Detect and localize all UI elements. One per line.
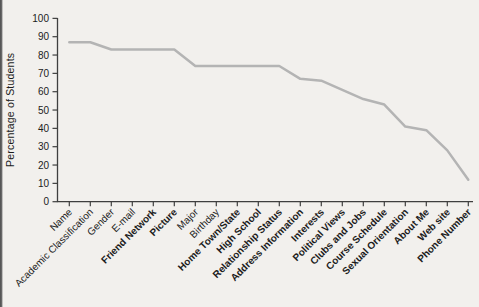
line-chart: 0102030405060708090100NameAcademic Class… <box>0 0 479 307</box>
axes <box>58 18 474 202</box>
y-tick-label: 0 <box>43 196 49 207</box>
y-tick-label: 60 <box>38 86 50 97</box>
y-axis-title: Percentage of Students <box>4 53 16 167</box>
y-tick-label: 70 <box>38 68 50 79</box>
data-series-line <box>69 42 468 179</box>
scan-edge-artifact <box>0 0 3 307</box>
y-tick-label: 50 <box>38 105 50 116</box>
y-tick-label: 40 <box>38 123 50 134</box>
y-tick-label: 90 <box>38 31 50 42</box>
figure: 0102030405060708090100NameAcademic Class… <box>0 0 479 307</box>
y-tick-label: 10 <box>38 178 50 189</box>
y-tick-label: 80 <box>38 50 50 61</box>
y-tick-label: 30 <box>38 141 50 152</box>
y-tick-label: 20 <box>38 160 50 171</box>
y-tick-label: 100 <box>32 13 49 24</box>
